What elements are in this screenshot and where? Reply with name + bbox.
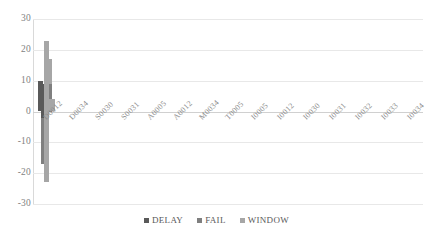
legend-label: DELAY <box>152 216 183 225</box>
y-tick-label: -10 <box>3 137 31 147</box>
chart-legend: DELAYFAILWINDOW <box>0 216 433 225</box>
legend-item-delay[interactable]: DELAY <box>144 216 183 225</box>
legend-label: WINDOW <box>248 216 289 225</box>
legend-label: FAIL <box>205 216 226 225</box>
gridline--30 <box>33 204 423 205</box>
legend-item-window[interactable]: WINDOW <box>240 216 289 225</box>
y-tick-label: 10 <box>3 76 31 86</box>
bar-chart: 3020100-10-20-30 D0012D0034S0030S0031A00… <box>0 0 433 238</box>
y-axis-tick-labels: 3020100-10-20-30 <box>0 19 31 204</box>
legend-swatch-icon <box>144 218 149 223</box>
y-tick-label: -30 <box>3 199 31 209</box>
y-tick-label: 30 <box>3 14 31 24</box>
y-tick-label: -20 <box>3 168 31 178</box>
legend-item-fail[interactable]: FAIL <box>197 216 226 225</box>
y-tick-label: 20 <box>3 45 31 55</box>
y-tick-label: 0 <box>3 107 31 117</box>
bar-window-I0034 <box>44 62 49 111</box>
legend-swatch-icon <box>197 218 202 223</box>
legend-swatch-icon <box>240 218 245 223</box>
